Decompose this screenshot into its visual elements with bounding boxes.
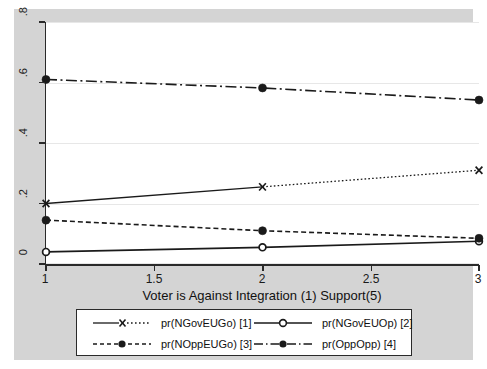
- xtick-label-3: 3: [458, 272, 487, 286]
- xtick-1: [45, 265, 47, 271]
- datapoint-marker: [475, 96, 483, 104]
- xtick-label-1.5: 1.5: [134, 272, 174, 286]
- xtick-label-2.5: 2.5: [351, 272, 391, 286]
- plot-area: [45, 22, 479, 264]
- datapoint-marker: [42, 216, 50, 224]
- series-line-0-b: [263, 170, 480, 187]
- ytick-0.6: [39, 82, 45, 84]
- x-axis-title: Voter is Against Integration (1) Support…: [45, 288, 479, 303]
- legend-sample-noppeugo: [91, 336, 153, 352]
- xtick-2: [262, 265, 264, 271]
- series-line-0: [46, 187, 263, 204]
- legend-box: pr(NGovEUGo) [1] pr(NGovEUOp) [2] pr(NOp…: [76, 309, 412, 356]
- series-paths: [46, 79, 479, 251]
- legend-entry-oppopp[interactable]: pr(OppOpp) [4]: [252, 334, 396, 354]
- ytick-label-0.6: .6: [17, 68, 29, 98]
- datapoint-marker: [259, 227, 267, 235]
- xtick-3: [478, 265, 480, 271]
- ytick-0.8: [39, 21, 45, 23]
- series-markers: [42, 75, 483, 255]
- datapoint-marker: [475, 234, 483, 242]
- legend-entry-ngoveugo[interactable]: pr(NGovEUGo) [1]: [91, 313, 251, 333]
- legend-sample-ngoveugo: [91, 315, 153, 331]
- datapoint-marker: [43, 249, 50, 256]
- datapoint-marker: [259, 244, 266, 251]
- figure-container: .8 .6 .4 .2 0 1 1.5 2 2.5 3 Voter is Aga…: [14, 9, 473, 360]
- legend-row-1: pr(NGovEUGo) [1] pr(NGovEUOp) [2]: [77, 313, 411, 333]
- datapoint-marker: [259, 84, 267, 92]
- legend-row-2: pr(NOppEUGo) [3] pr(OppOpp) [4]: [77, 334, 411, 354]
- ytick-0.4: [39, 142, 45, 144]
- ytick-0.2: [39, 203, 45, 205]
- legend-entry-noppeugo[interactable]: pr(NOppEUGo) [3]: [91, 334, 252, 354]
- xtick-2.5: [371, 265, 373, 271]
- ytick-label-0.2: .2: [17, 189, 29, 219]
- legend-label-noppeugo: pr(NOppEUGo) [3]: [161, 338, 252, 350]
- xtick-1.5: [154, 265, 156, 271]
- ytick-label-0.8: .8: [17, 7, 29, 37]
- legend-entry-ngoveuop[interactable]: pr(NGovEUOp) [2]: [252, 313, 412, 333]
- series-layer: [46, 22, 479, 264]
- legend-label-ngoveuop: pr(NGovEUOp) [2]: [322, 317, 412, 329]
- legend-sample-ngoveuop: [252, 315, 314, 331]
- xtick-label-1: 1: [25, 272, 65, 286]
- legend-label-oppopp: pr(OppOpp) [4]: [322, 338, 396, 350]
- legend-sample-oppopp: [252, 336, 314, 352]
- xtick-label-2: 2: [242, 272, 282, 286]
- datapoint-marker: [476, 167, 483, 174]
- ytick-label-0.4: .4: [17, 128, 29, 158]
- legend-label-ngoveugo: pr(NGovEUGo) [1]: [161, 317, 251, 329]
